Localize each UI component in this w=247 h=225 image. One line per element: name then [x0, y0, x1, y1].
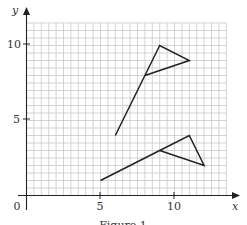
x-axis-arrow-icon — [232, 192, 240, 199]
y-axis-label: y — [11, 4, 19, 17]
y-axis-arrow-icon — [23, 7, 30, 15]
x-axis-label: x — [232, 200, 239, 213]
origin-label: 0 — [14, 200, 21, 213]
figure-canvas: 0 5 10 x 5 10 y Figure 1 — [0, 0, 247, 225]
x-tick-label-10: 10 — [167, 200, 181, 213]
y-tick-label-5: 5 — [13, 113, 20, 126]
x-tick-label-5: 5 — [97, 200, 104, 213]
figure-caption: Figure 1 — [99, 219, 147, 225]
y-tick-label-10: 10 — [7, 38, 21, 51]
grid-lines — [27, 23, 227, 196]
